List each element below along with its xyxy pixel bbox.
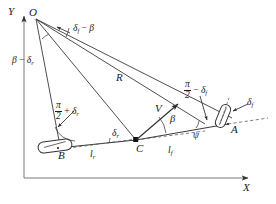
point-label-B: B [58,150,65,161]
y-axis-label: Y [8,6,14,17]
angle-arc-psi [196,121,199,128]
angle-label-deltar: δr [112,129,119,139]
length-label-rear: lr [90,150,95,160]
line-O-to-B [36,19,60,146]
velocity-label: V [155,103,162,114]
deltar-sub: r [31,59,34,66]
point-label-O: O [29,7,37,18]
leader-to-delta-f-minus-beta [57,27,70,33]
point-label-C: C [136,143,143,154]
minus-op: − [79,23,89,33]
deltaf-sub-2: f [205,89,207,96]
two-denominator-2: 2 [55,112,62,122]
deltar-sub-3: r [116,132,119,139]
deltar-sub-2: r [76,110,79,117]
beta-symbol: β [89,23,94,33]
radius-label: R [116,72,123,83]
angle-label-halfpi-minus-deltaf: π2 − δf [184,80,207,100]
diagram-root: Y X O A B C V R lr lf δf − β β − δr π2 −… [0,0,276,204]
length-rear-sub: r [93,153,96,160]
angle-label-psi: ψ [193,131,199,141]
length-label-front: lf [168,146,172,156]
half-pi-fraction: π2 [184,80,191,100]
minus-op-2: − [17,55,27,65]
angle-label-deltaf-minus-beta: δf − β [73,24,94,34]
point-label-A: A [231,124,238,135]
length-front-sub: f [171,149,173,156]
arc-beta-minus-delta-r [42,34,49,39]
minus-op-3: − [191,85,201,95]
angle-label-beta: β [170,114,175,125]
two-denominator: 2 [184,91,191,101]
plus-op: + [62,106,72,116]
angle-label-beta-minus-deltar: β − δr [12,56,34,66]
chassis-C-to-A [136,124,228,140]
angle-label-halfpi-plus-deltar: π2 + δr [55,101,79,121]
deltaf-sub-3: f [251,101,253,108]
angle-label-deltaf: δf [247,98,253,108]
leader-to-delta-f [233,104,248,111]
front-wheel-A [214,98,232,129]
rear-wheel-B [37,138,72,153]
half-pi-fraction-2: π2 [55,101,62,121]
x-axis-label: X [243,182,250,193]
diagram-canvas [0,0,276,204]
